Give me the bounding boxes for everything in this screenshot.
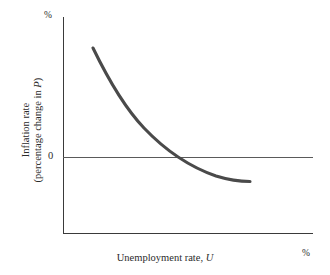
x-axis-title: Unemployment rate, U	[0, 252, 330, 264]
chart-canvas	[0, 0, 330, 275]
phillips-curve-path	[93, 48, 250, 182]
y-axis-title-prefix: (percentage change in	[32, 88, 43, 183]
y-axis-title-line2: (percentage change in P)	[32, 55, 44, 205]
x-axis-title-prefix: Unemployment rate,	[117, 252, 206, 263]
y-axis-unit-label: %	[44, 10, 52, 21]
zero-tick-label: 0	[48, 150, 53, 162]
y-axis-title-line1: Inflation rate	[20, 55, 32, 205]
y-axis-title-suffix: )	[32, 78, 43, 82]
phillips-curve-figure: % % 0 Inflation rate (percentage change …	[0, 0, 330, 275]
y-axis-title: Inflation rate (percentage change in P)	[20, 55, 44, 205]
x-axis-title-variable: U	[206, 252, 214, 263]
y-axis-title-variable: P	[32, 81, 43, 87]
